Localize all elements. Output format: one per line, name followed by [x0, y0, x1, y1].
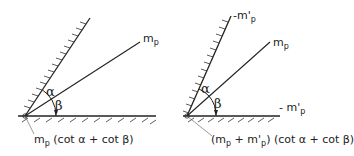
right-yield-line	[187, 42, 270, 116]
left-horizontal-hatching	[22, 118, 156, 124]
left-diagram: α β mp mp (cot α + cot β)	[18, 18, 159, 148]
right-diagram: α β -m'p mp - m'p (mp + m'p) (cot α + co…	[183, 9, 354, 148]
right-top-mp-prime-label: -m'p	[233, 9, 256, 24]
right-support-line-inclined	[187, 16, 231, 116]
left-alpha-label: α	[46, 84, 55, 99]
left-beta-label: β	[55, 98, 63, 113]
right-mp-label: mp	[273, 36, 289, 51]
right-horizontal-hatching	[188, 118, 274, 122]
left-leader-line	[25, 116, 34, 134]
yield-line-diagrams: α β mp mp (cot α + cot β)	[0, 0, 354, 156]
right-formula: (mp + m'p) (cot α + cot β)	[211, 133, 354, 148]
right-alpha-label: α	[201, 81, 210, 96]
left-formula: mp (cot α + cot β)	[34, 133, 134, 148]
right-bottom-mp-prime-label: - m'p	[279, 101, 305, 116]
left-mp-label: mp	[143, 32, 159, 47]
right-leader-line	[187, 116, 212, 136]
right-beta-label: β	[214, 96, 222, 111]
left-inclined-hatching	[24, 22, 86, 108]
left-yield-line	[25, 42, 140, 116]
